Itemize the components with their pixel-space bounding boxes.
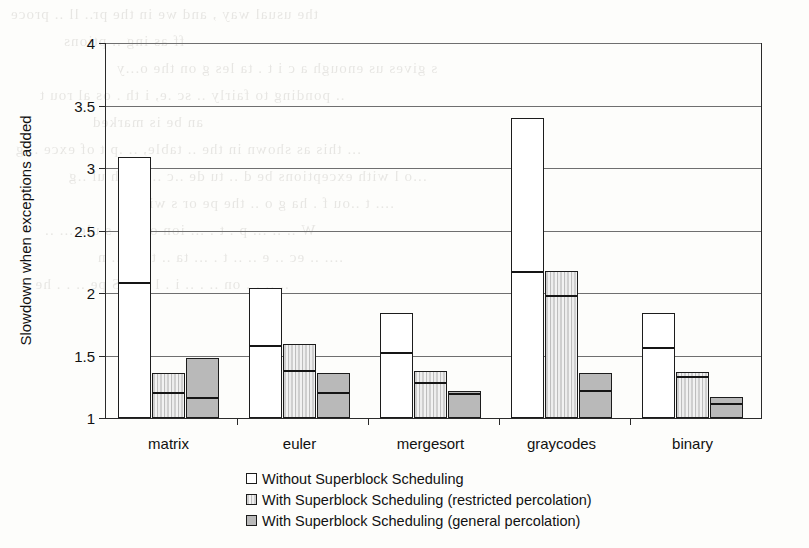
bar-mergesort-series2	[448, 391, 481, 419]
chart-legend: Without Superblock SchedulingWith Superb…	[246, 468, 592, 531]
bar-mergesort-series1	[414, 371, 447, 419]
legend-label: Without Superblock Scheduling	[262, 471, 464, 487]
bar-binary-series0	[642, 313, 675, 418]
x-axis-label-binary: binary	[672, 435, 713, 452]
bar-segment-upper	[153, 374, 184, 394]
y-axis-title: Slowdown when exceptions added	[14, 43, 36, 418]
legend-item: With Superblock Scheduling (general perc…	[246, 510, 592, 531]
y-axis-title-text: Slowdown when exceptions added	[17, 115, 34, 345]
bar-graycodes-series1	[545, 271, 578, 419]
bar-matrix-series1	[152, 373, 185, 418]
y-axis-tick	[99, 231, 106, 232]
bar-segment-lower	[711, 403, 742, 417]
bar-segment-upper	[250, 289, 281, 347]
x-axis-label-graycodes: graycodes	[527, 435, 596, 452]
bar-segment-lower	[512, 271, 543, 417]
legend-item: Without Superblock Scheduling	[246, 468, 592, 489]
plot-area: 11.522.533.54matrixeulermergesortgraycod…	[105, 43, 762, 419]
bar-group: graycodes	[499, 43, 630, 418]
x-axis-tick	[368, 418, 369, 425]
y-axis-tick-label: 1	[87, 410, 95, 427]
x-axis-label-matrix: matrix	[148, 435, 189, 452]
bar-segment-lower	[284, 370, 315, 418]
y-axis-tick-label: 1.5	[74, 347, 95, 364]
bar-segment-lower	[119, 282, 150, 417]
bar-segment-lower	[449, 393, 480, 417]
bar-segment-lower	[415, 382, 446, 417]
bar-segment-upper	[318, 374, 349, 394]
legend-label: With Superblock Scheduling (general perc…	[262, 513, 580, 529]
y-axis-tick-label: 3.5	[74, 97, 95, 114]
y-axis-tick-label: 2	[87, 285, 95, 302]
bar-segment-upper	[284, 345, 315, 371]
bar-segment-lower	[546, 295, 577, 418]
bar-binary-series2	[710, 397, 743, 418]
legend-item: With Superblock Scheduling (restricted p…	[246, 489, 592, 510]
bar-segment-lower	[643, 347, 674, 417]
y-axis-tick	[99, 168, 106, 169]
x-axis-label-euler: euler	[283, 435, 316, 452]
y-axis-tick-label: 2.5	[74, 222, 95, 239]
bar-binary-series1	[676, 372, 709, 418]
y-axis-tick	[99, 356, 106, 357]
y-axis-tick-label: 4	[87, 35, 95, 52]
y-axis-tick	[99, 43, 106, 44]
bar-mergesort-series0	[380, 313, 413, 418]
bar-euler-series1	[283, 344, 316, 418]
bar-segment-lower	[677, 376, 708, 417]
x-axis-tick	[237, 418, 238, 425]
bar-graycodes-series2	[579, 373, 612, 418]
bar-matrix-series0	[118, 157, 151, 418]
legend-swatch-solid-gray	[246, 515, 257, 526]
bar-euler-series2	[317, 373, 350, 418]
bar-group: euler	[237, 43, 368, 418]
bar-group: matrix	[106, 43, 237, 418]
legend-swatch-white	[246, 473, 257, 484]
bar-segment-upper	[546, 272, 577, 297]
bar-group: binary	[630, 43, 761, 418]
legend-label: With Superblock Scheduling (restricted p…	[262, 492, 592, 508]
x-axis-label-mergesort: mergesort	[397, 435, 465, 452]
bar-chart: Slowdown when exceptions added 11.522.53…	[0, 0, 809, 548]
x-axis-tick	[499, 418, 500, 425]
legend-swatch-vertical-hatch	[246, 494, 257, 505]
bar-segment-lower	[153, 392, 184, 417]
y-axis-tick	[99, 418, 106, 419]
bar-segment-upper	[187, 359, 218, 399]
bar-segment-upper	[643, 314, 674, 349]
bar-segment-lower	[381, 352, 412, 417]
bar-group: mergesort	[368, 43, 499, 418]
bar-euler-series0	[249, 288, 282, 418]
bar-segment-upper	[119, 158, 150, 284]
bar-segment-upper	[512, 119, 543, 273]
bar-segment-lower	[250, 345, 281, 418]
bar-segment-lower	[318, 392, 349, 417]
bar-graycodes-series0	[511, 118, 544, 418]
bar-segment-lower	[187, 397, 218, 417]
bar-segment-lower	[580, 390, 611, 418]
y-axis-tick-label: 3	[87, 160, 95, 177]
y-axis-tick	[99, 106, 106, 107]
bar-matrix-series2	[186, 358, 219, 418]
bar-segment-upper	[381, 314, 412, 354]
y-axis-tick	[99, 293, 106, 294]
x-axis-tick	[630, 418, 631, 425]
